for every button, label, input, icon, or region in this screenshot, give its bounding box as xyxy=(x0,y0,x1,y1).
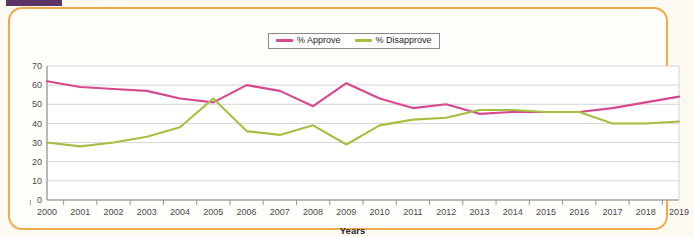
legend-swatch-disapprove xyxy=(355,39,372,42)
x-tick-label: 2011 xyxy=(403,207,422,217)
x-tick-label: 2003 xyxy=(137,207,157,217)
legend-swatch-approve xyxy=(276,39,293,42)
y-tick-label: 70 xyxy=(32,61,42,71)
y-tick-label: 40 xyxy=(32,119,42,129)
top-cut-off-text: ........ xyxy=(100,0,620,5)
y-tick-label: 0 xyxy=(37,195,42,205)
x-tick-label: 2019 xyxy=(669,207,689,217)
chart-card: % Approve % Disapprove 01020304050607020… xyxy=(8,7,668,230)
y-tick-label: 30 xyxy=(32,138,42,148)
legend-label-disapprove: % Disapprove xyxy=(376,36,432,45)
x-tick-label: 2017 xyxy=(602,207,622,217)
legend-label-approve: % Approve xyxy=(297,36,341,45)
x-tick-label: 2001 xyxy=(70,207,90,217)
x-tick-label: 2015 xyxy=(536,207,556,217)
y-tick-label: 20 xyxy=(32,157,42,167)
x-tick-label: 2004 xyxy=(170,207,190,217)
x-tick-label: 2016 xyxy=(569,207,589,217)
x-tick-label: 2005 xyxy=(203,207,223,217)
plot-area: 0102030405060702000200120022003200420052… xyxy=(10,55,694,220)
x-tick-label: 2012 xyxy=(436,207,456,217)
legend-item-approve: % Approve xyxy=(276,36,341,45)
x-tick-label: 2013 xyxy=(469,207,489,217)
x-tick-label: 2000 xyxy=(37,207,57,217)
x-tick-label: 2008 xyxy=(303,207,323,217)
x-tick-label: 2007 xyxy=(270,207,290,217)
x-tick-label: 2010 xyxy=(370,207,390,217)
line-chart-svg: 0102030405060702000200120022003200420052… xyxy=(10,55,694,220)
y-tick-label: 50 xyxy=(32,99,42,109)
chart-legend: % Approve % Disapprove xyxy=(268,33,440,49)
y-tick-label: 10 xyxy=(32,176,42,186)
x-tick-label: 2006 xyxy=(237,207,257,217)
x-tick-label: 2018 xyxy=(636,207,656,217)
x-tick-label: 2009 xyxy=(336,207,356,217)
top-purple-bar xyxy=(6,0,62,6)
y-tick-label: 60 xyxy=(32,80,42,90)
x-axis-title: Years xyxy=(10,225,694,236)
x-tick-label: 2014 xyxy=(503,207,523,217)
legend-item-disapprove: % Disapprove xyxy=(355,36,432,45)
x-tick-label: 2002 xyxy=(104,207,124,217)
